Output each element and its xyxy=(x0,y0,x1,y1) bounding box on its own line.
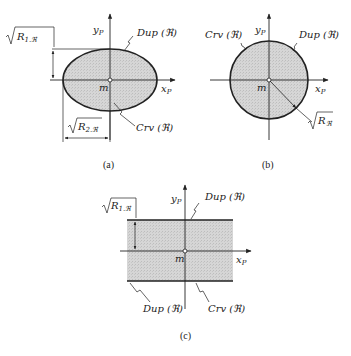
figure-svg: m xP yP R1.ℜ R2.ℜ Dup (ℜ) Crv (ℜ) (a) m … xyxy=(0,0,351,356)
dup-label: Dup (ℜ) xyxy=(136,27,177,38)
crv-leader xyxy=(241,43,246,50)
origin-label: m xyxy=(257,82,266,93)
y-axis-label: yP xyxy=(170,193,182,206)
radius-leader xyxy=(296,108,312,122)
y-axis-label: yP xyxy=(92,24,104,37)
dup-bottom-label: Dup (ℜ) xyxy=(142,303,183,314)
figure-canvas: m xP yP R1.ℜ R2.ℜ Dup (ℜ) Crv (ℜ) (a) m … xyxy=(0,0,351,356)
dup-bottom-leader xyxy=(130,283,150,302)
origin-label: m xyxy=(175,253,184,264)
band-region xyxy=(127,220,233,281)
dim-label-r1: R1.ℜ xyxy=(16,31,38,44)
crv-label: Crv (ℜ) xyxy=(208,303,245,314)
panel-b: m xP yP Rℜ Crv (ℜ) Dup (ℜ) (b) xyxy=(205,14,339,171)
caption-b: (b) xyxy=(262,159,274,171)
dup-leader xyxy=(124,36,133,51)
dup-label: Dup (ℜ) xyxy=(298,29,339,40)
dim-label-r2: R2.ℜ xyxy=(77,121,99,134)
dim-label-r: Rℜ xyxy=(317,115,333,128)
y-axis-label: yP xyxy=(254,24,266,37)
x-axis-label: xP xyxy=(236,254,247,267)
dup-top-leader xyxy=(191,203,199,219)
dim-label-r1: R1.ℜ xyxy=(110,200,132,213)
x-axis-label: xP xyxy=(315,83,326,96)
origin-label: m xyxy=(99,82,108,93)
crv-label: Crv (ℜ) xyxy=(136,122,173,133)
origin-point xyxy=(108,78,112,82)
caption-c: (c) xyxy=(180,330,191,342)
dup-top-label: Dup (ℜ) xyxy=(204,191,245,202)
caption-a: (a) xyxy=(103,159,114,171)
x-axis-label: xP xyxy=(161,83,172,96)
crv-leader xyxy=(196,283,209,302)
panel-c: m xP yP R1.ℜ Dup (ℜ) Dup (ℜ) Crv (ℜ) (c) xyxy=(102,185,251,342)
crv-label: Crv (ℜ) xyxy=(205,29,242,40)
dup-leader xyxy=(293,43,297,51)
panel-a: m xP yP R1.ℜ R2.ℜ Dup (ℜ) Crv (ℜ) (a) xyxy=(6,14,177,171)
